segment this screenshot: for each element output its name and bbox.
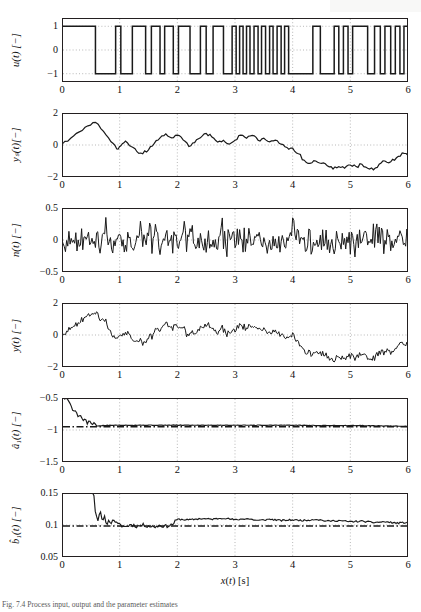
- y-tick-b1-0: 0.15: [22, 487, 58, 498]
- x-tick-b1-3: 3: [221, 559, 249, 570]
- x-tick-b1-5: 5: [336, 559, 364, 570]
- x-tick-b1-0: 0: [48, 559, 76, 570]
- x-tick-b1-1: 1: [106, 559, 134, 570]
- x-tick-b1-2: 2: [163, 559, 191, 570]
- figure-multi-panel-time-series: Fig. 7.4 Process input, output and the p…: [0, 0, 421, 612]
- x-tick-b1-4: 4: [279, 559, 307, 570]
- x-tick-b1-6: 6: [394, 559, 421, 570]
- y-axis-label-b1: b̂₁(t) [−]: [10, 491, 21, 559]
- y-tick-b1-1: 0.1: [22, 519, 58, 530]
- x-axis-label: x(t) [s]: [195, 575, 275, 586]
- plot-canvas-b1: [0, 0, 421, 612]
